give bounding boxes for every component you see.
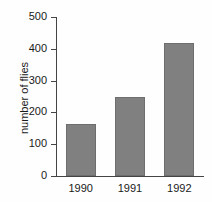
- y-tick-label: 0: [1, 170, 47, 181]
- y-tick-label: 300: [1, 75, 47, 86]
- x-tick-label-1992: 1992: [154, 182, 204, 194]
- y-tick-300: 300: [0, 81, 56, 82]
- plot-area: [56, 17, 204, 176]
- y-tick-label: 400: [1, 43, 47, 54]
- bar-1991: [115, 97, 145, 176]
- y-tick-label: 500: [1, 11, 47, 22]
- y-tick-0: 0: [0, 176, 56, 177]
- y-tick-400: 400: [0, 49, 56, 50]
- y-tick-500: 500: [0, 17, 56, 18]
- y-tick-100: 100: [0, 144, 56, 145]
- x-tick-label-1991: 1991: [105, 182, 155, 194]
- y-tick-mark: [51, 176, 56, 177]
- bar-1990: [66, 124, 96, 176]
- x-tick-label-1990: 1990: [56, 182, 106, 194]
- bar-chart: number of flies 0100200300400500 1990199…: [0, 0, 212, 202]
- bar-1992: [164, 43, 194, 176]
- y-tick-label: 200: [1, 106, 47, 117]
- x-axis-line: [56, 176, 204, 177]
- y-tick-200: 200: [0, 112, 56, 113]
- y-tick-label: 100: [1, 138, 47, 149]
